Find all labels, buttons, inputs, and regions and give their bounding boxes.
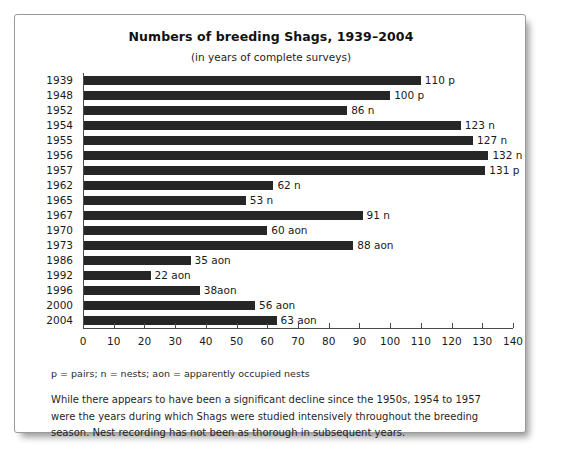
bar-track: 110 p: [83, 73, 513, 88]
bar: [83, 166, 485, 175]
bar-rows: 1939110 p1948100 p195286 n1954123 n19551…: [29, 73, 513, 328]
bar-track: 91 n: [83, 208, 513, 223]
x-axis-tick: [175, 323, 176, 328]
bar-row: 195286 n: [29, 103, 513, 118]
bar-track: 60 aon: [83, 223, 513, 238]
bar-row: 196553 n: [29, 193, 513, 208]
bar-row: 196262 n: [29, 178, 513, 193]
bar-value-label: 53 n: [246, 193, 273, 208]
bar: [83, 316, 277, 325]
bar-value-label: 91 n: [363, 208, 390, 223]
bar-value-label: 131 p: [485, 163, 519, 178]
x-axis-tick: [298, 323, 299, 328]
bar-row: 197060 aon: [29, 223, 513, 238]
x-axis-tick-label: 140: [503, 335, 523, 347]
bar: [83, 286, 200, 295]
bar-row-year-label: 1996: [29, 283, 73, 298]
bar: [83, 301, 255, 310]
bar: [83, 211, 363, 220]
bar: [83, 181, 273, 190]
bar-track: 131 p: [83, 163, 513, 178]
x-axis-tick-label: 0: [80, 335, 87, 347]
bar-row: 200463 aon: [29, 313, 513, 328]
x-axis-tick: [267, 323, 268, 328]
x-axis: 0102030405060708090100110120130140: [29, 328, 513, 352]
x-axis-tick: [83, 323, 84, 328]
bar-track: 127 n: [83, 133, 513, 148]
bar-row-year-label: 1957: [29, 163, 73, 178]
bar-row: 1954123 n: [29, 118, 513, 133]
x-axis-tick: [390, 323, 391, 328]
bar-row-year-label: 1967: [29, 208, 73, 223]
bar-row-year-label: 1954: [29, 118, 73, 133]
bar-row: 200056 aon: [29, 298, 513, 313]
bar-value-label: 62 n: [273, 178, 300, 193]
bar-value-label: 132 n: [488, 148, 522, 163]
bar-row: 1955127 n: [29, 133, 513, 148]
bar-value-label: 100 p: [390, 88, 424, 103]
x-axis-tick: [237, 323, 238, 328]
bar-value-label: 38aon: [200, 283, 237, 298]
chart-footnote: p = pairs; n = nests; aon = apparently o…: [51, 368, 310, 379]
bar-track: 56 aon: [83, 298, 513, 313]
bar-row-year-label: 1986: [29, 253, 73, 268]
bar-row: 1948100 p: [29, 88, 513, 103]
bar-value-label: 127 n: [473, 133, 507, 148]
bar-row-year-label: 1962: [29, 178, 73, 193]
bar: [83, 136, 473, 145]
bar: [83, 241, 353, 250]
bar-value-label: 86 n: [347, 103, 374, 118]
bar: [83, 196, 246, 205]
x-axis-tick-label: 120: [442, 335, 462, 347]
bar-row-year-label: 1939: [29, 73, 73, 88]
bar-row: 1939110 p: [29, 73, 513, 88]
x-axis-tick-label: 100: [380, 335, 400, 347]
x-axis-tick: [206, 323, 207, 328]
x-axis-tick-label: 20: [138, 335, 151, 347]
x-axis-tick-label: 110: [411, 335, 431, 347]
bar-row-year-label: 1970: [29, 223, 73, 238]
bar-track: 62 n: [83, 178, 513, 193]
page-root: Numbers of breeding Shags, 1939–2004 (in…: [0, 0, 565, 466]
chart-card: Numbers of breeding Shags, 1939–2004 (in…: [14, 14, 526, 433]
bar-row-year-label: 1955: [29, 133, 73, 148]
bar-track: 86 n: [83, 103, 513, 118]
bar-track: 38aon: [83, 283, 513, 298]
bar-row-year-label: 2004: [29, 313, 73, 328]
bar: [83, 226, 267, 235]
x-axis-line: [83, 328, 513, 329]
y-axis-line: [83, 73, 84, 328]
bar: [83, 256, 191, 265]
x-axis-tick-label: 80: [322, 335, 335, 347]
x-axis-tick-label: 70: [291, 335, 304, 347]
x-axis-tick-label: 30: [168, 335, 181, 347]
page-title: Numbers of breeding Shags, 1939–2004: [15, 29, 527, 44]
x-axis-tick: [144, 323, 145, 328]
bar-value-label: 123 n: [461, 118, 495, 133]
x-axis-tick: [452, 323, 453, 328]
bar-row-year-label: 1952: [29, 103, 73, 118]
bar-track: 132 n: [83, 148, 513, 163]
bar-value-label: 60 aon: [267, 223, 307, 238]
bar-row: 199638aon: [29, 283, 513, 298]
bar-track: 53 n: [83, 193, 513, 208]
x-axis-tick-label: 50: [230, 335, 243, 347]
bar-track: 100 p: [83, 88, 513, 103]
bar: [83, 106, 347, 115]
bar-row-year-label: 1965: [29, 193, 73, 208]
x-axis-tick-label: 40: [199, 335, 212, 347]
x-axis-tick-label: 60: [261, 335, 274, 347]
x-axis-tick: [513, 323, 514, 328]
bar-track: 22 aon: [83, 268, 513, 283]
x-axis-tick: [421, 323, 422, 328]
chart-header: Numbers of breeding Shags, 1939–2004 (in…: [15, 29, 527, 63]
bar-row: 1957131 p: [29, 163, 513, 178]
bar: [83, 151, 488, 160]
x-axis-tick-label: 10: [107, 335, 120, 347]
bar-track: 88 aon: [83, 238, 513, 253]
x-axis-tick-label: 90: [353, 335, 366, 347]
bar-row-year-label: 2000: [29, 298, 73, 313]
bar-value-label: 56 aon: [255, 298, 295, 313]
x-axis-tick: [114, 323, 115, 328]
bar-row: 197388 aon: [29, 238, 513, 253]
